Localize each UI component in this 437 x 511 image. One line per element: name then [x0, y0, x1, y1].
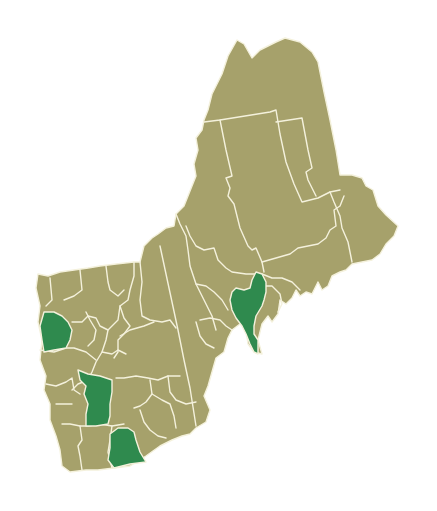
- choropleth-map: [0, 0, 437, 511]
- map-container: [0, 0, 437, 511]
